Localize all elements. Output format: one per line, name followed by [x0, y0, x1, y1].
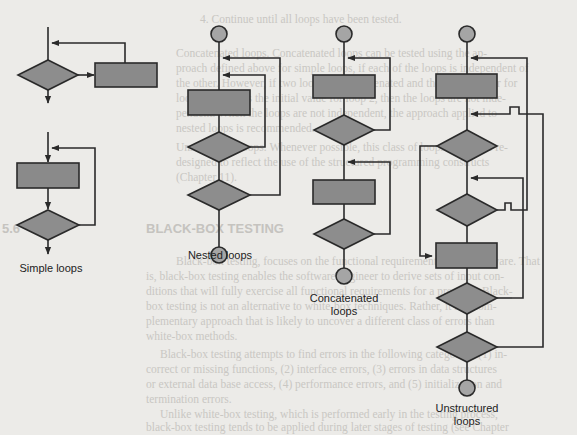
decision-diamond — [437, 194, 497, 226]
end-terminal — [336, 268, 352, 284]
start-terminal — [459, 26, 475, 42]
process-box — [313, 180, 375, 204]
simple-loop-a — [18, 27, 157, 103]
process-box — [313, 75, 375, 98]
start-terminal — [211, 26, 227, 42]
process-box — [436, 243, 497, 268]
concatenated-loops — [313, 26, 390, 284]
label-unstructured-loops-2: loops — [427, 415, 507, 428]
label-unstructured-loops-1: Unstructured — [427, 402, 507, 415]
inner-decision-diamond — [188, 132, 250, 162]
end-terminal — [459, 380, 475, 396]
decision-diamond — [437, 332, 497, 362]
process-box — [188, 90, 250, 115]
outer-decision-diamond — [188, 180, 250, 210]
unstructured-loops — [420, 26, 543, 396]
process-box — [436, 74, 497, 98]
nested-loops — [188, 26, 280, 263]
decision-diamond — [437, 283, 497, 314]
label-concatenated-loops-2: loops — [304, 305, 384, 318]
label-nested-loops: Nested loops — [184, 249, 256, 262]
label-simple-loops: Simple loops — [18, 262, 84, 275]
process-box — [17, 163, 79, 188]
decision-diamond — [314, 115, 374, 145]
label-concatenated-loops-1: Concatenated — [304, 292, 384, 305]
decision-diamond — [18, 60, 78, 90]
decision-diamond — [17, 210, 79, 240]
decision-diamond — [437, 130, 497, 162]
simple-loop-b — [17, 132, 95, 254]
decision-diamond — [314, 219, 374, 249]
process-box — [95, 63, 157, 87]
start-terminal — [336, 26, 352, 42]
